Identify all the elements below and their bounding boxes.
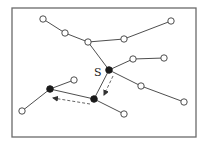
- nodes-group: [19, 16, 187, 117]
- open-node: [121, 36, 127, 42]
- graph-edge: [65, 33, 88, 42]
- graph-edge: [141, 86, 184, 102]
- graph-edge: [124, 21, 171, 39]
- filled-node: [47, 86, 54, 93]
- graph-diagram: S: [0, 0, 205, 148]
- open-node: [62, 30, 68, 36]
- open-node: [161, 55, 167, 61]
- open-node: [71, 77, 77, 83]
- graph-edge: [109, 70, 141, 86]
- dashed-arrow: [53, 98, 90, 104]
- open-node: [130, 56, 136, 62]
- graph-edge: [43, 19, 65, 33]
- dashed-arrow: [104, 76, 113, 95]
- graph-edge: [94, 99, 124, 114]
- graph-edge: [50, 89, 94, 99]
- graph-edge: [133, 58, 164, 59]
- graph-edge: [109, 59, 133, 70]
- source-node-label: S: [94, 66, 102, 79]
- open-node: [168, 18, 174, 24]
- edges-group: [22, 19, 184, 114]
- graph-edge: [50, 80, 74, 89]
- open-node: [85, 39, 91, 45]
- open-node: [19, 108, 25, 114]
- filled-node: [91, 96, 98, 103]
- graph-edge: [22, 89, 50, 111]
- graph-edge: [88, 39, 124, 42]
- open-node: [121, 111, 127, 117]
- open-node: [40, 16, 46, 22]
- open-node: [138, 83, 144, 89]
- filled-node: [106, 67, 113, 74]
- diagram-frame: [12, 8, 196, 137]
- open-node: [181, 99, 187, 105]
